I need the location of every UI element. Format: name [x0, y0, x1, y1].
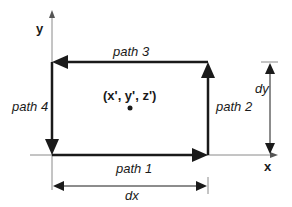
- arrowhead-down-icon: [45, 139, 59, 155]
- dy-arrow-up-icon: [265, 63, 275, 74]
- arrowhead-left-icon: [52, 55, 68, 69]
- path-1-arrow: [52, 148, 208, 162]
- dx-arrow-left-icon: [53, 181, 64, 191]
- y-axis-arrow-icon: [49, 10, 55, 18]
- point-marker-icon: [128, 106, 133, 111]
- dx-label: dx: [125, 188, 139, 203]
- x-axis-label: x: [264, 159, 272, 174]
- path-2-label: path 2: [215, 99, 253, 114]
- path-4-label: path 4: [11, 99, 48, 114]
- x-axis-arrow-icon: [270, 152, 278, 158]
- arrowhead-up-icon: [201, 62, 215, 78]
- circulation-diagram: y x path 1 path 2 path 3 path 4 (x', y',…: [0, 0, 292, 207]
- arrowhead-right-icon: [192, 148, 208, 162]
- y-axis-label: y: [36, 21, 44, 36]
- path-3-label: path 3: [112, 44, 150, 59]
- dy-arrow-down-icon: [265, 143, 275, 154]
- path-1-label: path 1: [115, 161, 152, 176]
- dx-arrow-right-icon: [196, 181, 207, 191]
- point-label: (x', y', z'): [103, 88, 156, 103]
- dy-label: dy: [255, 81, 270, 96]
- path-2-arrow: [201, 62, 215, 155]
- dy-dimension: [261, 62, 278, 154]
